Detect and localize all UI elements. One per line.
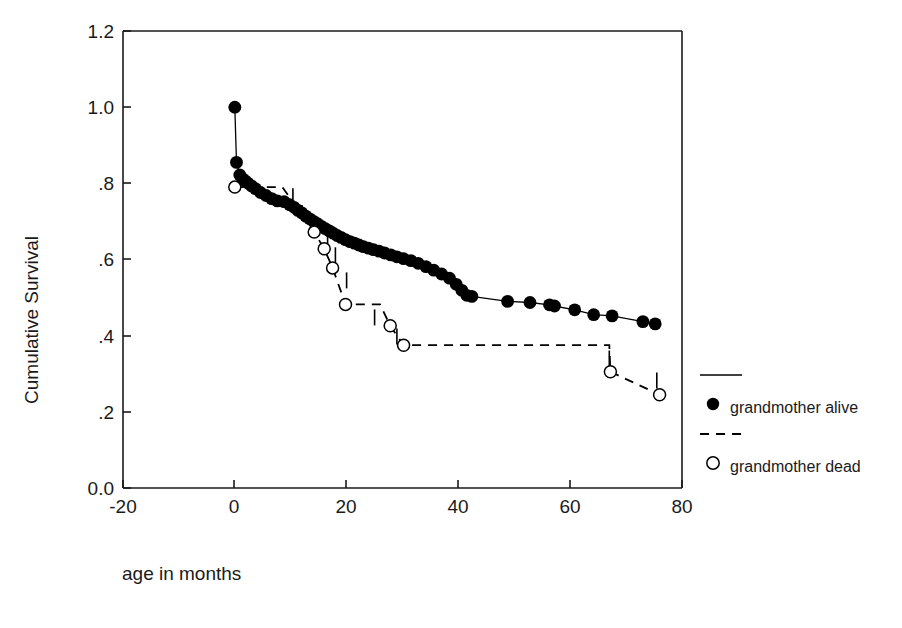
x-axis-tick-labels: -20 0 20 40 60 80 (109, 496, 692, 517)
data-series-layer (228, 101, 665, 401)
survival-chart-figure: 1.2 1.0 .8 .6 .4 .2 0.0 -20 0 20 40 60 8… (0, 0, 902, 628)
y-axis-ticks (123, 31, 131, 488)
data-point-open-circle (604, 366, 616, 378)
data-point-open-circle (654, 389, 666, 401)
chart-canvas: 1.2 1.0 .8 .6 .4 .2 0.0 -20 0 20 40 60 8… (0, 0, 902, 628)
data-point-filled-circle (649, 318, 662, 331)
data-point-open-circle (327, 262, 339, 274)
x-tick-label-0: 0 (229, 496, 240, 517)
data-point-open-circle (340, 298, 352, 310)
y-tick-label-0.4: .4 (98, 326, 114, 347)
y-tick-label-0.6: .6 (98, 249, 114, 270)
y-tick-label-0.8: .8 (98, 173, 114, 194)
data-point-open-circle (318, 243, 330, 255)
x-axis-ticks (123, 480, 682, 488)
y-tick-label-1.0: 1.0 (88, 97, 114, 118)
x-tick-label-20: 20 (335, 496, 356, 517)
chart-legend: grandmother alive grandmother dead (700, 375, 861, 475)
y-axis-tick-labels: 1.2 1.0 .8 .6 .4 .2 0.0 (88, 21, 115, 499)
data-point-filled-circle (228, 101, 241, 114)
data-point-open-circle (398, 339, 410, 351)
data-point-filled-circle (501, 295, 514, 308)
y-tick-label-1.2: 1.2 (88, 21, 114, 42)
legend-label-grandmother-dead: grandmother dead (730, 458, 861, 475)
data-point-open-circle (229, 181, 241, 193)
data-point-filled-circle (587, 308, 600, 321)
data-point-filled-circle (230, 156, 243, 169)
series-grandmother-alive (228, 101, 661, 331)
y-tick-label-0.2: .2 (98, 402, 114, 423)
data-point-filled-circle (606, 310, 619, 323)
data-point-filled-circle (568, 303, 581, 316)
y-axis-title: Cumulative Survival (21, 236, 42, 404)
legend-filled-circle-icon (707, 398, 719, 410)
legend-open-circle-icon (707, 457, 719, 469)
x-axis-title: age in months (122, 563, 241, 584)
data-point-filled-circle (548, 300, 561, 313)
data-point-open-circle (384, 320, 396, 332)
data-point-filled-circle (637, 315, 650, 328)
x-tick-label-40: 40 (447, 496, 468, 517)
data-point-filled-circle (524, 296, 537, 309)
data-point-filled-circle (465, 290, 478, 303)
x-tick-label-80: 80 (671, 496, 692, 517)
x-tick-label--20: -20 (109, 496, 136, 517)
legend-label-grandmother-alive: grandmother alive (730, 399, 858, 416)
x-tick-label-60: 60 (559, 496, 580, 517)
data-point-open-circle (308, 226, 320, 238)
